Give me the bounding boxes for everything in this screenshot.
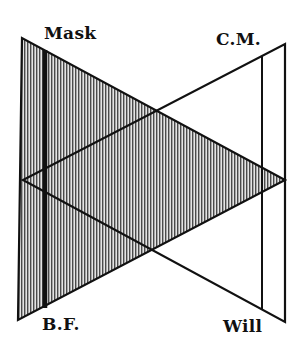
shaded-triangle xyxy=(18,38,285,320)
crossed-triangles-diagram xyxy=(0,0,307,354)
label-bf: B.F. xyxy=(42,316,80,333)
label-mask: Mask xyxy=(44,25,96,42)
label-will: Will xyxy=(223,318,262,335)
label-cm: C.M. xyxy=(216,31,261,48)
